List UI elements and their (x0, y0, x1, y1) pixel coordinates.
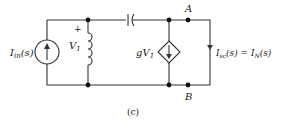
main-loop (47, 20, 210, 85)
dependent-source-label: gV1 (136, 47, 154, 60)
inductor-coil (88, 33, 92, 65)
figure-caption: (c) (127, 107, 139, 117)
source-label: Iin(s) (9, 47, 34, 60)
plus-sign: + (74, 24, 82, 34)
node-a-label: A (184, 3, 192, 14)
circuit-diagram: Iin(s) + V1 gV1 A B Isc(s) = IN(s) (c) (0, 0, 284, 128)
output-current-label: Isc(s) = IN(s) (215, 48, 272, 59)
node-b-dot (186, 83, 191, 88)
node-a-dot (186, 18, 191, 23)
node-b-label: B (184, 91, 192, 102)
voltage-label: V1 (69, 40, 81, 53)
